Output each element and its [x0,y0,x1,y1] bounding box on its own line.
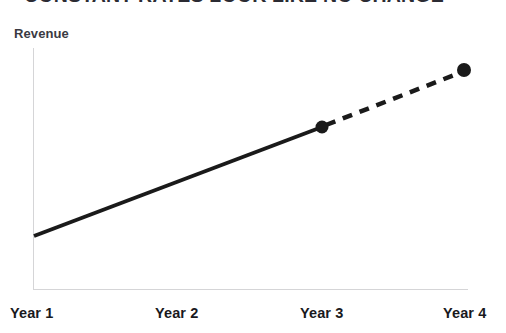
x-tick-label-year-1: Year 1 [10,305,53,321]
x-tick-label-year-2: Year 2 [155,305,198,321]
solid-line-segment [34,127,322,236]
x-tick-label-year-4: Year 4 [443,305,486,321]
chart-slide: CONSTANT RATES LOOK LIKE NO CHANGE Reven… [0,0,506,333]
line-series-svg [0,0,506,333]
dashed-line-segment [326,72,462,125]
x-tick-label-year-3: Year 3 [300,305,343,321]
data-point-year-4 [457,63,471,77]
data-point-year-3 [316,121,329,134]
plot-area [0,0,506,333]
